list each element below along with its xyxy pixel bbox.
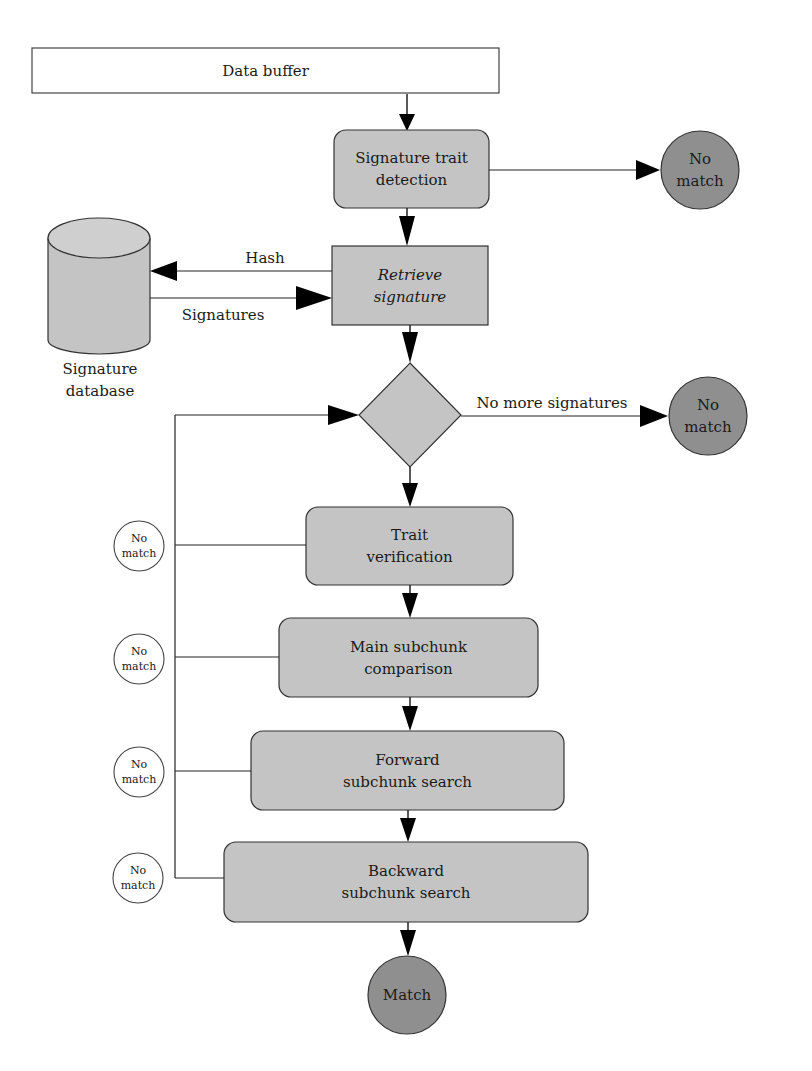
signature-trait-detection-label: Signature trait detection xyxy=(334,130,489,208)
forward-subchunk-search-label: Forward subchunk search xyxy=(251,731,564,810)
no-match-label-1: No match xyxy=(661,131,739,209)
data-buffer-label: Data buffer xyxy=(32,48,499,93)
main-subchunk-comparison-label: Main subchunk comparison xyxy=(279,618,538,697)
trait-verification-label: Trait verification xyxy=(306,507,513,585)
hash-label: Hash xyxy=(230,247,300,269)
no-match-small-label-1: No match xyxy=(114,521,164,571)
retrieve-signature-label: Retrieve signature xyxy=(332,246,488,325)
no-match-label-2: No match xyxy=(669,377,747,455)
match-label: Match xyxy=(368,956,446,1034)
backward-subchunk-search-label: Backward subchunk search xyxy=(224,842,588,922)
no-match-small-label-4: No match xyxy=(113,853,163,903)
no-match-small-label-3: No match xyxy=(114,747,164,797)
no-more-signatures-label: No more signatures xyxy=(462,392,642,414)
signature-database-label: Signature database xyxy=(40,356,160,404)
signatures-label: Signatures xyxy=(168,304,278,326)
decision-diamond xyxy=(359,363,461,467)
signature-database-cylinder xyxy=(48,218,150,354)
no-match-small-label-2: No match xyxy=(114,634,164,684)
